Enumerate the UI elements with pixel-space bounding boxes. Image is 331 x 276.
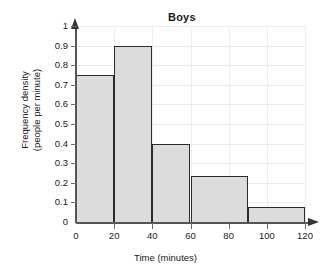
y-tick-label: 0.3 (28, 157, 68, 168)
x-tick-label: 40 (132, 230, 172, 241)
y-tick-mark (71, 46, 77, 47)
plot-area (76, 26, 315, 222)
y-tick-label: 0 (28, 216, 68, 227)
y-tick-label: 0.5 (28, 118, 68, 129)
y-tick-label: 0.2 (28, 177, 68, 188)
y-tick-label: 0.8 (28, 59, 68, 70)
y-tick-mark (71, 124, 77, 125)
y-tick-mark (71, 104, 77, 105)
y-axis-arrow-icon (71, 18, 79, 29)
histogram-bar (248, 207, 305, 222)
x-tick-mark (114, 223, 115, 229)
y-tick-label: 1 (28, 20, 68, 31)
x-tick-label: 20 (94, 230, 134, 241)
y-tick-mark (71, 202, 77, 203)
x-tick-label: 60 (171, 230, 211, 241)
y-tick-mark (71, 65, 77, 66)
y-tick-label: 0.4 (28, 138, 68, 149)
x-tick-mark (305, 223, 306, 229)
histogram-bar (191, 176, 248, 222)
x-tick-mark (191, 223, 192, 229)
gridline-vertical (305, 26, 306, 222)
y-tick-label: 0.9 (28, 40, 68, 51)
y-tick-label: 0.6 (28, 98, 68, 109)
x-tick-label: 0 (56, 230, 96, 241)
x-axis-line (76, 222, 310, 224)
x-tick-mark (152, 223, 153, 229)
histogram-bar (114, 46, 152, 222)
x-tick-label: 80 (209, 230, 249, 241)
y-tick-label: 0.7 (28, 79, 68, 90)
y-tick-mark (71, 26, 77, 27)
y-tick-mark (71, 163, 77, 164)
y-tick-mark (71, 85, 77, 86)
x-tick-mark (267, 223, 268, 229)
histogram-bar (76, 75, 114, 222)
y-axis-line (75, 28, 77, 223)
x-axis-arrow-icon (308, 218, 319, 226)
y-tick-mark (71, 144, 77, 145)
histogram-bar (152, 144, 190, 222)
histogram-figure: Boys Frequency density (people per minut… (0, 0, 331, 276)
x-tick-mark (229, 223, 230, 229)
y-tick-label: 0.1 (28, 196, 68, 207)
x-tick-label: 100 (247, 230, 287, 241)
chart-title: Boys (168, 11, 196, 23)
x-tick-label: 120 (285, 230, 325, 241)
gridline-vertical (267, 26, 268, 222)
x-axis-label: Time (minutes) (0, 252, 331, 263)
y-tick-mark (71, 183, 77, 184)
